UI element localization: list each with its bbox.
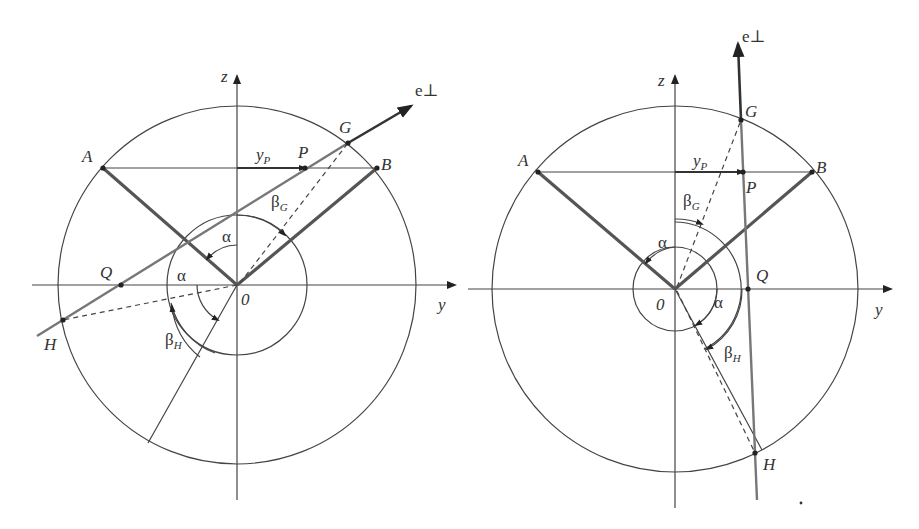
- label-a: A: [81, 147, 93, 166]
- point-h: [60, 317, 65, 322]
- segment-ob: [237, 168, 377, 285]
- label-h: H: [762, 455, 777, 474]
- point-p: [740, 169, 745, 174]
- point-q: [745, 286, 750, 291]
- label-z: z: [657, 71, 665, 90]
- label-yp: yP: [691, 151, 708, 172]
- label-p: P: [297, 143, 308, 162]
- label-e-perp: e⊥: [742, 27, 766, 46]
- label-alpha-2: α: [177, 266, 186, 285]
- e-perp-line: [37, 143, 348, 336]
- label-y: y: [436, 295, 446, 314]
- label-origin: 0: [656, 295, 665, 314]
- label-beta-h: βH: [724, 343, 742, 364]
- label-b: B: [381, 155, 392, 174]
- label-origin: 0: [241, 290, 250, 309]
- segment-oa: [103, 168, 237, 285]
- label-g: G: [339, 118, 351, 137]
- arc-alpha-2: [197, 285, 218, 320]
- label-y: y: [873, 300, 883, 319]
- stray-dot: [800, 502, 803, 505]
- point-b: [374, 165, 379, 170]
- label-alpha-2: α: [714, 293, 723, 312]
- segment-oa: [538, 172, 675, 289]
- label-yp: yP: [254, 145, 271, 166]
- dash-og: [240, 143, 348, 283]
- label-g: G: [745, 102, 757, 121]
- e-perp-line: [741, 120, 757, 500]
- point-a: [535, 169, 540, 174]
- right-panel: z y 0 e⊥ A B P G Q H yP α α βG βH: [468, 27, 891, 508]
- point-b: [809, 169, 814, 174]
- point-q: [118, 282, 123, 287]
- label-b: B: [816, 158, 827, 177]
- arc-beta-g: [237, 215, 285, 235]
- point-g: [738, 117, 743, 122]
- label-alpha-1: α: [222, 227, 231, 246]
- arc-alpha-1: [207, 245, 237, 259]
- label-z: z: [220, 67, 228, 86]
- diagram-canvas: z y 0 e⊥ A B P G Q H yP α α βG βH: [0, 0, 919, 529]
- e-perp-arrow: [348, 106, 411, 143]
- ray-lower: [148, 285, 237, 443]
- label-q: Q: [756, 266, 768, 285]
- label-e-perp: e⊥: [415, 81, 439, 100]
- point-p: [302, 165, 307, 170]
- label-alpha-1: α: [658, 233, 667, 252]
- label-beta-g: βG: [271, 192, 288, 213]
- label-p: P: [745, 178, 756, 197]
- label-a: A: [517, 151, 529, 170]
- left-panel: z y 0 e⊥ A B P G Q H yP α α βG βH: [32, 67, 455, 500]
- label-q: Q: [100, 263, 112, 282]
- label-h: H: [43, 335, 58, 354]
- e-perp-arrow: [738, 44, 741, 120]
- arc-beta-h: [707, 289, 742, 349]
- point-h: [752, 450, 757, 455]
- point-a: [100, 165, 105, 170]
- label-beta-g: βG: [683, 191, 700, 212]
- point-g: [345, 140, 350, 145]
